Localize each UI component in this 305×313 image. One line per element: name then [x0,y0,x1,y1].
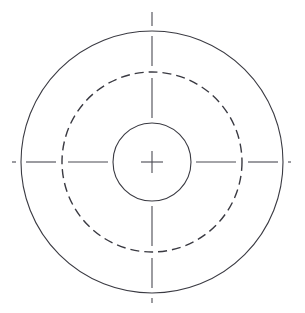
technical-drawing-canvas [0,0,305,313]
drawing-svg [0,0,305,313]
